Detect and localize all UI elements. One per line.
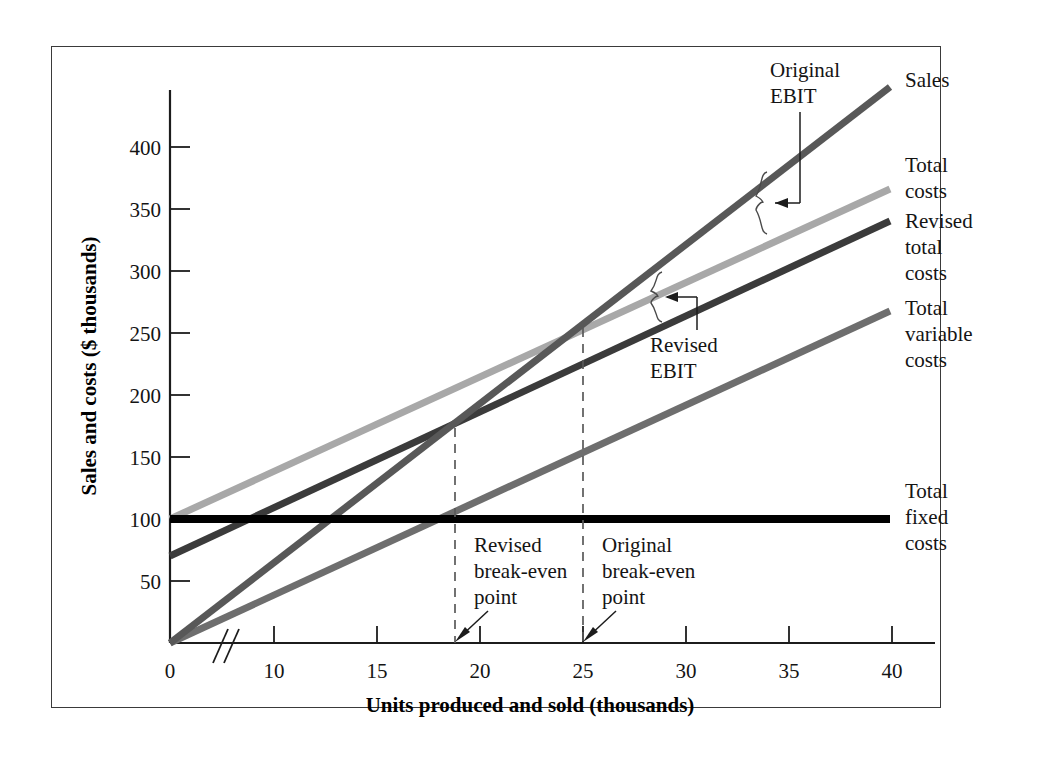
x-axis-title: Units produced and sold (thousands) <box>366 693 695 717</box>
x-tick-label-25: 25 <box>573 659 594 683</box>
series-label-total-costs-line2: costs <box>905 179 947 203</box>
original-bep-label-line1: Original <box>602 533 672 557</box>
series-label-total-variable-costs-line2: variable <box>905 322 973 346</box>
y-tick-label-50: 50 <box>140 570 161 594</box>
y-tick-labels: 400 350 300 250 200 150 100 50 <box>130 136 162 594</box>
original-ebit-arrowhead <box>775 198 788 208</box>
x-tick-label-35: 35 <box>779 659 800 683</box>
y-tick-label-400: 400 <box>130 136 162 160</box>
original-bep-label-line2: break-even <box>602 559 696 583</box>
original-break-even-annotation: Original break-even point <box>583 533 696 642</box>
series-label-total-variable-costs-line1: Total <box>905 296 948 320</box>
revised-bep-label-line3: point <box>474 585 517 609</box>
series-label-revised-total-costs-group: Revised total costs <box>905 209 973 285</box>
series-label-total-variable-costs-line3: costs <box>905 348 947 372</box>
revised-break-even-annotation: Revised break-even point <box>455 533 568 642</box>
y-tick-label-300: 300 <box>130 260 162 284</box>
series-label-total-variable-costs-group: Total variable costs <box>905 296 973 372</box>
y-tick-label-350: 350 <box>130 198 162 222</box>
original-ebit-annotation: Original EBIT <box>756 58 840 234</box>
break-even-chart: 400 350 300 250 200 150 100 50 0 10 <box>0 0 1059 771</box>
x-tick-label-40: 40 <box>882 659 903 683</box>
original-ebit-label-line1: Original <box>770 58 840 82</box>
figure-canvas: 400 350 300 250 200 150 100 50 0 10 <box>0 0 1059 771</box>
x-tick-label-10: 10 <box>264 659 285 683</box>
series-label-sales: Sales <box>905 68 949 92</box>
y-tick-label-250: 250 <box>130 322 162 346</box>
y-tick-label-200: 200 <box>130 384 162 408</box>
x-tick-label-0: 0 <box>165 659 176 683</box>
series-label-total-fixed-costs-line2: fixed <box>905 505 949 529</box>
original-ebit-label-line2: EBIT <box>770 84 817 108</box>
series-label-revised-total-costs-line1: Revised <box>905 209 973 233</box>
series-label-total-fixed-costs-group: Total fixed costs <box>905 479 949 555</box>
series-label-sales-group: Sales <box>905 68 949 92</box>
series-label-revised-total-costs-line3: costs <box>905 261 947 285</box>
x-tick-labels: 0 10 15 20 25 30 35 40 <box>165 659 903 683</box>
series-label-total-costs-line1: Total <box>905 153 948 177</box>
x-tick-label-30: 30 <box>676 659 697 683</box>
revised-ebit-label-line2: EBIT <box>650 359 697 383</box>
original-bep-label-line3: point <box>602 585 645 609</box>
series-line-revised-total-costs <box>170 221 890 556</box>
y-tick-label-150: 150 <box>130 446 162 470</box>
x-tick-label-15: 15 <box>367 659 388 683</box>
series-label-revised-total-costs-line2: total <box>905 235 942 259</box>
x-axis-break-icon <box>213 629 239 663</box>
series-label-total-costs-group: Total costs <box>905 153 948 203</box>
series-line-total-costs <box>170 189 890 519</box>
series-label-total-fixed-costs-line1: Total <box>905 479 948 503</box>
y-tick-label-100: 100 <box>130 508 162 532</box>
x-tick-label-20: 20 <box>470 659 491 683</box>
revised-bep-label-line1: Revised <box>474 533 542 557</box>
series-label-total-fixed-costs-line3: costs <box>905 531 947 555</box>
y-axis-title: Sales and costs ($ thousands) <box>77 236 101 495</box>
revised-ebit-label-line1: Revised <box>650 333 718 357</box>
revised-bep-label-line2: break-even <box>474 559 568 583</box>
